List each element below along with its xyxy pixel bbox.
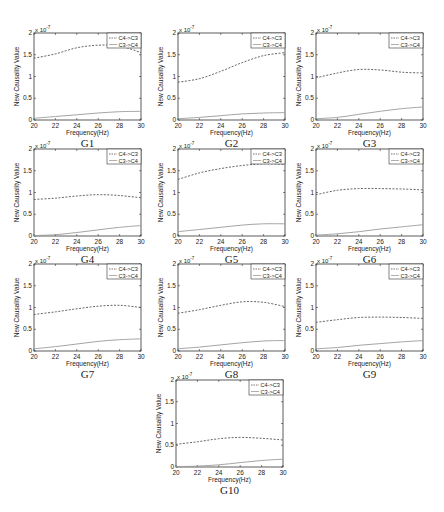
- chart-panel-g1: 20222426283000.511.52x 10-7Frequency(Hz)…: [13, 25, 145, 150]
- legend-label: C4->C3: [401, 151, 420, 157]
- x-tick-label: 30: [137, 122, 145, 129]
- x-axis-label: Frequency(Hz): [66, 245, 109, 253]
- legend: C4->C3C3->C4: [107, 33, 141, 48]
- y-tick-label: 0: [172, 232, 176, 239]
- y-tick-label: 1: [172, 73, 176, 80]
- legend: C4->C3C3->C4: [251, 264, 285, 279]
- y-axis-label: New Causality Value: [157, 46, 165, 106]
- x-tick-label: 24: [355, 238, 363, 245]
- x-tick-label: 28: [398, 122, 406, 129]
- chart-panel-g10: 20222426283000.511.52x 10-7Frequency(Hz)…: [155, 372, 287, 497]
- y-tick-label: 2: [172, 145, 176, 152]
- y-tick-label: 1.5: [23, 167, 32, 174]
- legend-label: C3->C4: [401, 158, 420, 164]
- y-exponent-label: x 10-7: [317, 256, 333, 264]
- legend-label: C3->C4: [261, 389, 280, 395]
- legend-label: C3->C4: [119, 273, 138, 279]
- panel-caption: G6: [363, 253, 377, 265]
- legend-label: C3->C4: [263, 273, 282, 279]
- y-tick-label: 1.5: [23, 51, 32, 58]
- legend: C4->C3C3->C4: [249, 380, 283, 395]
- x-tick-label: 26: [237, 469, 245, 476]
- y-tick-label: 1.5: [305, 282, 314, 289]
- legend: C4->C3C3->C4: [389, 264, 423, 279]
- panel-caption: G10: [220, 484, 239, 496]
- y-tick-label: 1: [310, 304, 314, 311]
- y-tick-label: 2: [310, 260, 314, 267]
- y-exponent-label: x 10-7: [317, 25, 333, 33]
- panel-caption: G4: [81, 253, 95, 265]
- panel-caption: G2: [225, 137, 238, 149]
- legend-label: C3->C4: [119, 42, 138, 48]
- panel-caption: G1: [81, 137, 94, 149]
- y-exponent-label: x 10-7: [179, 141, 195, 149]
- x-tick-label: 22: [52, 122, 60, 129]
- y-tick-label: 0: [310, 232, 314, 239]
- y-exponent-label: x 10-7: [179, 25, 195, 33]
- legend: C4->C3C3->C4: [389, 33, 423, 48]
- y-tick-label: 0: [172, 347, 176, 354]
- x-tick-label: 26: [377, 353, 385, 360]
- legend-label: C4->C3: [401, 35, 420, 41]
- y-tick-label: 1: [310, 73, 314, 80]
- y-exponent-label: x 10-7: [317, 141, 333, 149]
- y-exponent-label: x 10-7: [179, 256, 195, 264]
- x-tick-label: 26: [95, 353, 103, 360]
- x-tick-label: 24: [217, 353, 225, 360]
- legend-label: C4->C3: [119, 266, 138, 272]
- y-tick-label: 0.5: [23, 210, 32, 217]
- x-tick-label: 22: [196, 353, 204, 360]
- legend: C4->C3C3->C4: [251, 33, 285, 48]
- x-tick-label: 24: [217, 122, 225, 129]
- legend-label: C3->C4: [263, 42, 282, 48]
- x-tick-label: 30: [419, 238, 427, 245]
- figure-grid: 20222426283000.511.52x 10-7Frequency(Hz)…: [0, 0, 444, 512]
- x-tick-label: 24: [217, 238, 225, 245]
- x-axis-label: Frequency(Hz): [210, 360, 253, 368]
- y-tick-label: 1.5: [305, 167, 314, 174]
- y-axis-label: New Causality Value: [155, 393, 163, 453]
- y-tick-label: 2: [28, 29, 32, 36]
- y-tick-label: 0: [28, 116, 32, 123]
- x-tick-label: 26: [95, 238, 103, 245]
- y-exponent-label: x 10-7: [35, 141, 51, 149]
- legend: C4->C3C3->C4: [389, 149, 423, 164]
- x-tick-label: 24: [73, 122, 81, 129]
- y-tick-label: 0.5: [23, 94, 32, 101]
- legend-label: C3->C4: [119, 158, 138, 164]
- x-tick-label: 24: [73, 238, 81, 245]
- x-axis-label: Frequency(Hz): [348, 245, 391, 253]
- x-tick-label: 30: [279, 469, 287, 476]
- chart-panel-g4: 20222426283000.511.52x 10-7Frequency(Hz)…: [13, 141, 145, 266]
- chart-panel-g5: 20222426283000.511.52x 10-7Frequency(Hz)…: [157, 141, 289, 266]
- legend-label: C4->C3: [263, 151, 282, 157]
- x-tick-label: 26: [239, 238, 247, 245]
- y-tick-label: 1.5: [165, 398, 174, 405]
- x-tick-label: 24: [355, 122, 363, 129]
- x-axis-label: Frequency(Hz): [210, 245, 253, 253]
- legend-label: C4->C3: [401, 266, 420, 272]
- legend-label: C3->C4: [263, 158, 282, 164]
- x-tick-label: 30: [419, 353, 427, 360]
- figure-canvas: 20222426283000.511.52x 10-7Frequency(Hz)…: [0, 0, 444, 512]
- legend: C4->C3C3->C4: [107, 149, 141, 164]
- panel-caption: G3: [363, 137, 377, 149]
- x-tick-label: 28: [260, 353, 268, 360]
- x-tick-label: 22: [52, 238, 60, 245]
- y-tick-label: 1: [172, 189, 176, 196]
- x-tick-label: 28: [260, 122, 268, 129]
- x-tick-label: 26: [377, 122, 385, 129]
- x-tick-label: 30: [137, 238, 145, 245]
- y-tick-label: 1: [310, 189, 314, 196]
- y-tick-label: 1: [28, 73, 32, 80]
- x-tick-label: 30: [281, 353, 289, 360]
- y-tick-label: 0: [28, 347, 32, 354]
- chart-panel-g3: 20222426283000.511.52x 10-7Frequency(Hz)…: [295, 25, 427, 150]
- x-tick-label: 26: [377, 238, 385, 245]
- legend-label: C4->C3: [119, 35, 138, 41]
- chart-panel-g8: 20222426283000.511.52x 10-7Frequency(Hz)…: [157, 256, 289, 381]
- x-tick-label: 28: [116, 353, 124, 360]
- y-tick-label: 0.5: [167, 210, 176, 217]
- x-tick-label: 22: [334, 353, 342, 360]
- y-exponent-label: x 10-7: [35, 25, 51, 33]
